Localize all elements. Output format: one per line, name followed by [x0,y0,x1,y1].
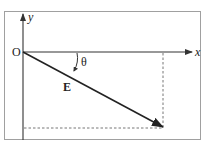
angle-theta-label: θ [81,55,87,69]
vector-e-arrow [23,52,163,127]
diagram-frame [5,12,201,140]
vector-diagram: y x O E θ [0,0,206,144]
angle-arc [74,53,78,71]
origin-label: O [12,45,21,59]
vector-e-label: E [63,80,71,94]
y-axis-label: y [27,10,34,24]
x-axis-label: x [194,45,201,59]
